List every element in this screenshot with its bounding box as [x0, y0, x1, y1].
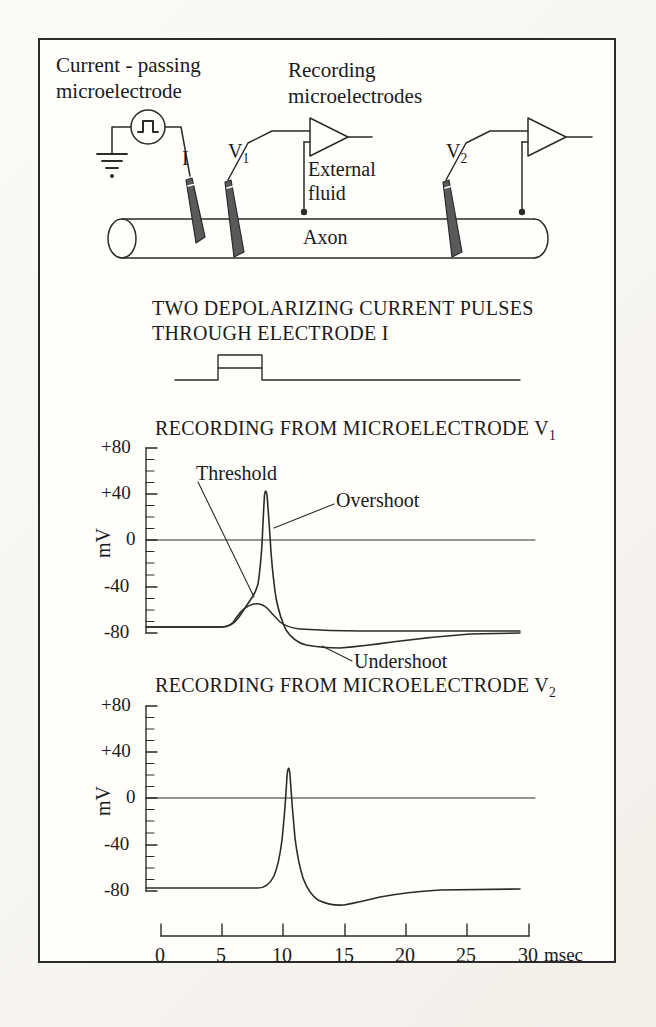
- stimulus-heading-line1: TWO DEPOLARIZING CURRENT PULSES: [152, 297, 534, 319]
- v2-electrode-label: V2: [446, 140, 467, 166]
- recording-label-line2: microelectrodes: [288, 85, 422, 109]
- panel-v1-ytick-0: 0: [126, 528, 136, 549]
- panel-v1-axis-label: mV: [92, 528, 115, 558]
- undershoot-annotation: Undershoot: [354, 650, 447, 672]
- external-fluid-label-line1: External: [308, 158, 376, 180]
- overshoot-annotation: Overshoot: [336, 489, 419, 511]
- panel-v2-ytick-40n: -40: [104, 833, 129, 854]
- xtick-5: 5: [216, 944, 226, 966]
- v2-electrode-letter: V: [446, 140, 460, 162]
- panel-v2-ytick-0: 0: [126, 786, 136, 807]
- panel-v1-ytick-40n: -40: [104, 575, 129, 596]
- v1-electrode-label: V1: [228, 140, 249, 166]
- stimulus-heading-line2: THROUGH ELECTRODE I: [152, 322, 389, 344]
- xtick-20: 20: [395, 944, 415, 966]
- panel-v1-heading-subscript: 1: [549, 428, 556, 443]
- xtick-30: 30: [518, 944, 538, 966]
- panel-v2-axis-label: mV: [92, 786, 115, 816]
- panel-v1-heading: RECORDING FROM MICROELECTRODE V1: [155, 417, 556, 443]
- current-passing-label-line1: Current - passing: [56, 54, 201, 78]
- panel-v2-heading-text: RECORDING FROM MICROELECTRODE V: [155, 674, 549, 696]
- panel-v2-heading: RECORDING FROM MICROELECTRODE V2: [155, 674, 556, 700]
- v1-electrode-subscript: 1: [242, 151, 249, 166]
- current-electrode-i-label: I: [182, 147, 189, 169]
- v1-electrode-letter: V: [228, 140, 242, 162]
- recording-label-line1: Recording: [288, 59, 375, 83]
- current-passing-label-line2: microelectrode: [56, 80, 182, 104]
- xtick-15: 15: [334, 944, 354, 966]
- panel-v1-ytick-80n: -80: [104, 621, 129, 642]
- threshold-annotation: Threshold: [196, 462, 277, 484]
- external-fluid-label-line2: fluid: [308, 182, 346, 204]
- panel-v1-ytick-80p: +80: [101, 436, 131, 457]
- x-axis-unit-label: msec: [544, 944, 583, 965]
- v2-electrode-subscript: 2: [460, 151, 467, 166]
- panel-v1-ytick-40p: +40: [101, 482, 131, 503]
- xtick-0: 0: [155, 944, 165, 966]
- xtick-10: 10: [272, 944, 292, 966]
- xtick-25: 25: [456, 944, 476, 966]
- figure-page: Current - passing microelectrode Recordi…: [0, 0, 656, 1027]
- panel-v1-heading-text: RECORDING FROM MICROELECTRODE V: [155, 417, 549, 439]
- panel-v2-ytick-80p: +80: [101, 694, 131, 715]
- axon-label: Axon: [303, 226, 347, 248]
- panel-v2-ytick-80n: -80: [104, 879, 129, 900]
- panel-v2-ytick-40p: +40: [101, 740, 131, 761]
- panel-v2-heading-subscript: 2: [549, 685, 556, 700]
